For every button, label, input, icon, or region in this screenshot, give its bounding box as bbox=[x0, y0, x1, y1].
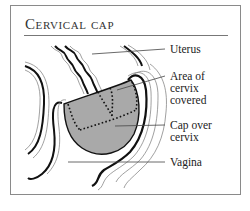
cap-shape bbox=[64, 80, 139, 154]
uterus-tubes bbox=[55, 46, 98, 94]
label-area-of-cervix-covered: Area of cervix covered bbox=[170, 70, 206, 106]
label-cap-over-cervix: Cap over cervix bbox=[170, 119, 212, 143]
label-uterus: Uterus bbox=[170, 43, 201, 55]
label-vagina: Vagina bbox=[170, 156, 202, 168]
cervical-cap-illustration bbox=[0, 0, 250, 211]
